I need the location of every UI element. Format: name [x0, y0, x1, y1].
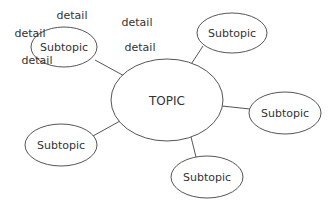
subtopic-node: Subtopic [249, 92, 321, 134]
connector-line [93, 121, 120, 136]
detail-label: detail [57, 9, 88, 22]
topic-node: TOPIC [111, 59, 223, 141]
detail-label: detail [22, 54, 53, 67]
connector-line [222, 106, 250, 109]
nodes: TOPICSubtopicSubtopicSubtopicSubtopicSub… [25, 13, 321, 198]
subtopic-label: Subtopic [261, 107, 309, 120]
subtopic-label: Subtopic [208, 27, 256, 40]
subtopic-label: Subtopic [40, 41, 88, 54]
subtopic-node: Subtopic [171, 156, 243, 198]
detail-label: detail [125, 41, 156, 54]
mind-map-canvas: TOPICSubtopicSubtopicSubtopicSubtopicSub… [0, 0, 334, 203]
detail-label: detail [15, 27, 46, 40]
subtopic-label: Subtopic [183, 171, 231, 184]
subtopic-node: Subtopic [25, 124, 97, 166]
connector-line [191, 137, 196, 157]
subtopic-node: Subtopic [197, 13, 267, 53]
topic-label: TOPIC [148, 94, 185, 108]
subtopic-label: Subtopic [37, 139, 85, 152]
detail-label: detail [122, 16, 153, 29]
